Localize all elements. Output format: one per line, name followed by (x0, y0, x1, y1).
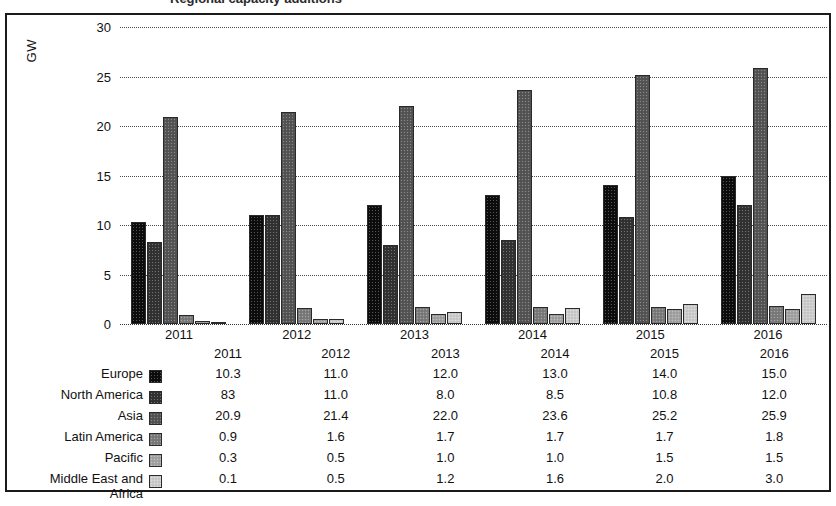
series-label: Europe (7, 367, 149, 388)
table-cell-value: 11.0 (281, 388, 391, 409)
bar-group (356, 27, 474, 324)
table-cell-value: 10.8 (610, 388, 720, 409)
table-header-year: 2012 (281, 347, 391, 367)
table-cell-value: 1.6 (281, 430, 391, 451)
legend-swatch-cell (149, 451, 175, 472)
table-cell-value: 22.0 (391, 409, 501, 430)
table-cell-value: 1.6 (500, 472, 610, 501)
bar (163, 117, 178, 324)
bar (619, 217, 634, 324)
table-cell-value: 0.5 (281, 472, 391, 501)
header-blank-label (7, 347, 149, 367)
y-axis-tick-label: 20 (97, 119, 111, 134)
legend-swatch-cell (149, 409, 175, 430)
table-cell-value: 1.2 (391, 472, 501, 501)
bar (683, 304, 698, 324)
page-title: Regional capacity additions (170, 0, 342, 6)
table-cell-value: 12.0 (719, 388, 829, 409)
bar (399, 106, 414, 324)
table-row: Europe10.311.012.013.014.015.0 (7, 367, 829, 388)
table-row: Latin America0.91.61.71.71.71.8 (7, 430, 829, 451)
series-label: Latin America (7, 430, 149, 451)
legend-swatch (149, 475, 162, 488)
table-cell-value: 25.2 (610, 409, 720, 430)
bar (667, 309, 682, 324)
table-header-year: 2013 (391, 347, 501, 367)
y-axis-tick-label: 15 (97, 168, 111, 183)
table-cell-value: 20.9 (175, 409, 281, 430)
table-cell-value: 25.9 (719, 409, 829, 430)
bar (179, 315, 194, 324)
table-cell-value: 13.0 (500, 367, 610, 388)
table-row: Middle East andAfrica0.10.51.21.62.03.0 (7, 472, 829, 501)
table-row: Asia20.921.422.023.625.225.9 (7, 409, 829, 430)
table-cell-value: 0.3 (175, 451, 281, 472)
bar (565, 308, 580, 324)
y-axis-tick-label: 30 (97, 20, 111, 35)
legend-swatch (149, 454, 162, 467)
series-label: Asia (7, 409, 149, 430)
chart-page: Regional capacity additions GW 051015202… (0, 0, 836, 506)
bar (769, 306, 784, 324)
bar-group (474, 27, 592, 324)
table-header-row: 201120122013201420152016 (7, 347, 829, 367)
table-cell-value: 10.3 (175, 367, 281, 388)
table-header-year: 2016 (719, 347, 829, 367)
table-cell-value: 21.4 (281, 409, 391, 430)
bar (431, 314, 446, 324)
series-label-line2: Africa (7, 487, 143, 502)
x-axis-tick-label: 2011 (165, 327, 193, 342)
y-axis-tick-label: 25 (97, 69, 111, 84)
x-axis-tick-label: 2014 (518, 327, 547, 342)
page-title-strip: Regional capacity additions (0, 0, 836, 11)
table-cell-value: 3.0 (719, 472, 829, 501)
bar (313, 319, 328, 324)
table-cell-value: 0.1 (175, 472, 281, 501)
bar (603, 185, 618, 324)
table-cell-value: 1.7 (391, 430, 501, 451)
table-cell-value: 8.5 (500, 388, 610, 409)
bar (447, 312, 462, 324)
table-header-year: 2015 (610, 347, 720, 367)
table-cell-value: 1.0 (391, 451, 501, 472)
bar (517, 90, 532, 324)
bar (265, 215, 280, 324)
bar-group (591, 27, 709, 324)
table-cell-value: 2.0 (610, 472, 720, 501)
table-cell-value: 1.5 (610, 451, 720, 472)
legend-swatch (149, 412, 162, 425)
bar (415, 307, 430, 324)
table-cell-value: 1.0 (500, 451, 610, 472)
bar (297, 308, 312, 324)
bar (737, 205, 752, 324)
bar (721, 176, 736, 325)
series-label: Middle East andAfrica (7, 472, 149, 501)
bar (367, 205, 382, 324)
table-cell-value: 14.0 (610, 367, 720, 388)
legend-swatch (149, 391, 162, 404)
bar (329, 319, 344, 324)
legend-swatch-cell (149, 367, 175, 388)
table-cell-value: 15.0 (719, 367, 829, 388)
bar (785, 309, 800, 324)
table-body: Europe10.311.012.013.014.015.0North Amer… (7, 367, 829, 501)
legend-swatch (149, 370, 162, 383)
table-cell-value: 23.6 (500, 409, 610, 430)
bar (635, 75, 650, 324)
bar (147, 242, 162, 324)
table-header-year: 2011 (175, 347, 281, 367)
table-cell-value: 12.0 (391, 367, 501, 388)
x-axis-tick-label: 2016 (754, 327, 783, 342)
table-header-year: 2014 (500, 347, 610, 367)
table-cell-value: 0.5 (281, 451, 391, 472)
x-axis-tick-label: 2012 (282, 327, 311, 342)
gridline (120, 324, 827, 325)
legend-swatch (149, 433, 162, 446)
bar (383, 245, 398, 324)
table-cell-value: 1.7 (500, 430, 610, 451)
bar (651, 307, 666, 324)
legend-swatch-cell (149, 430, 175, 451)
bar (195, 321, 210, 324)
y-axis-tick-label: 10 (97, 218, 111, 233)
table-cell-value: 83 (175, 388, 281, 409)
